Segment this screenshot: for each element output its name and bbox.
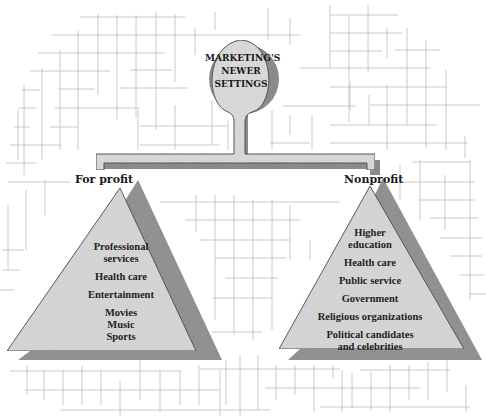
for-profit-items: Professional services Health care Entert… bbox=[60, 241, 182, 349]
nonprofit-items: Higher education Health care Public serv… bbox=[300, 227, 440, 359]
for-profit-label: For profit bbox=[75, 173, 133, 186]
item-line: Health care bbox=[300, 257, 440, 269]
list-item: Entertainment bbox=[60, 289, 182, 301]
nonprofit-label: Nonprofit bbox=[344, 173, 403, 186]
item-line: Entertainment bbox=[60, 289, 182, 301]
item-line: Sports bbox=[60, 331, 182, 343]
center-title-line: NEWER bbox=[205, 65, 277, 78]
center-title-line: SETTINGS bbox=[205, 78, 277, 91]
center-title: MARKETING'S NEWER SETTINGS bbox=[205, 52, 277, 91]
list-item: Government bbox=[300, 293, 440, 305]
list-item: Movies Music Sports bbox=[60, 307, 182, 343]
list-item: Religious organizations bbox=[300, 311, 440, 323]
center-title-line: MARKETING'S bbox=[205, 52, 277, 65]
list-item: Health care bbox=[300, 257, 440, 269]
item-line: Political candidates bbox=[300, 329, 440, 341]
item-line: Professional bbox=[60, 241, 182, 253]
item-line: Government bbox=[300, 293, 440, 305]
item-line: and celebrities bbox=[300, 341, 440, 353]
item-line: education bbox=[300, 239, 440, 251]
item-line: services bbox=[60, 253, 182, 265]
item-line: Higher bbox=[300, 227, 440, 239]
list-item: Higher education bbox=[300, 227, 440, 251]
item-line: Religious organizations bbox=[300, 311, 440, 323]
list-item: Professional services bbox=[60, 241, 182, 265]
list-item: Health care bbox=[60, 271, 182, 283]
list-item: Public service bbox=[300, 275, 440, 287]
item-line: Music bbox=[60, 319, 182, 331]
list-item: Political candidates and celebrities bbox=[300, 329, 440, 353]
item-line: Public service bbox=[300, 275, 440, 287]
item-line: Health care bbox=[60, 271, 182, 283]
item-line: Movies bbox=[60, 307, 182, 319]
diagram-canvas: MARKETING'S NEWER SETTINGS For profit No… bbox=[0, 0, 486, 416]
